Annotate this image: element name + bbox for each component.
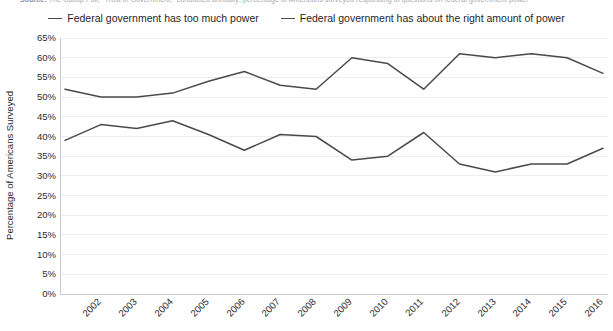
y-tick-label: 15%	[18, 230, 56, 240]
x-tick-label: 2014	[511, 296, 534, 319]
legend-line-swatch-icon	[48, 18, 62, 19]
x-tick-label: 2015	[546, 296, 569, 319]
plot-area	[60, 38, 608, 294]
y-tick-label: 30%	[18, 171, 56, 181]
x-tick-label: 2008	[295, 296, 318, 319]
legend-line-swatch-icon	[281, 18, 295, 19]
y-tick-label: 60%	[18, 53, 56, 63]
y-tick-label: 50%	[18, 92, 56, 102]
source-caption-label: Source:	[20, 0, 47, 3]
x-axis-tick-labels: 2002200320042005200620072008200920102011…	[60, 296, 608, 331]
y-tick-label: 20%	[18, 210, 56, 220]
x-tick-label: 2003	[116, 296, 139, 319]
x-tick-label: 2004	[152, 296, 175, 319]
x-tick-label: 2013	[475, 296, 498, 319]
x-tick-label: 2010	[367, 296, 390, 319]
y-tick-label: 35%	[18, 151, 56, 161]
series-line	[65, 121, 603, 172]
y-axis-tick-labels: 0%5%10%15%20%25%30%35%40%45%50%55%60%65%	[16, 38, 56, 294]
x-tick-label: 2005	[188, 296, 211, 319]
y-tick-label: 45%	[18, 112, 56, 122]
y-axis-title: Percentage of Americans Surveyed	[2, 36, 16, 294]
y-axis-title-text: Percentage of Americans Surveyed	[4, 91, 15, 240]
x-tick-label: 2016	[582, 296, 605, 319]
x-tick-label: 2011	[403, 296, 425, 318]
series-lines	[60, 38, 608, 294]
line-chart-figure: Source: The Gallup Poll, "Trust in Gover…	[0, 0, 613, 331]
chart-legend: Federal government has too much power Fe…	[0, 12, 613, 25]
source-caption-text: The Gallup Poll, "Trust in Government," …	[49, 0, 529, 3]
legend-label: Federal government has too much power	[67, 12, 258, 25]
y-tick-label: 40%	[18, 132, 56, 142]
y-tick-label: 0%	[18, 289, 56, 299]
legend-item-too-much-power[interactable]: Federal government has too much power	[48, 12, 258, 25]
y-tick-label: 65%	[18, 33, 56, 43]
y-tick-label: 5%	[18, 269, 56, 279]
y-tick-label: 55%	[18, 72, 56, 82]
x-tick-label: 2007	[259, 296, 282, 319]
source-caption: Source: The Gallup Poll, "Trust in Gover…	[20, 0, 610, 4]
x-tick-label: 2002	[80, 296, 103, 319]
series-line	[65, 54, 603, 97]
legend-label: Federal government has about the right a…	[300, 12, 565, 25]
y-tick-label: 25%	[18, 191, 56, 201]
x-tick-label: 2006	[224, 296, 247, 319]
legend-item-right-amount-power[interactable]: Federal government has about the right a…	[281, 12, 565, 25]
x-tick-label: 2009	[331, 296, 354, 319]
x-tick-label: 2012	[439, 296, 462, 319]
y-tick-label: 10%	[18, 250, 56, 260]
